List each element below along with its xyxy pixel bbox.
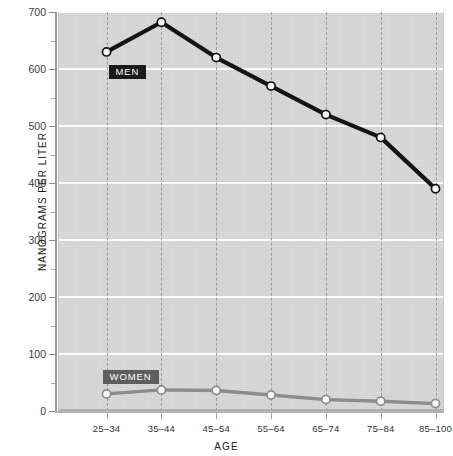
- x-tick-mark: [326, 413, 327, 419]
- data-point-marker: [212, 386, 220, 394]
- data-point-marker: [431, 399, 439, 407]
- x-tick-label: 25–34: [93, 423, 120, 434]
- x-tick-label: 55–64: [257, 423, 284, 434]
- x-tick-mark: [381, 413, 382, 419]
- x-tick-label: 45–54: [202, 423, 229, 434]
- y-tick-minor: [51, 41, 55, 42]
- data-point-marker: [102, 48, 110, 56]
- data-point-marker: [267, 391, 275, 399]
- data-point-marker: [157, 386, 165, 394]
- data-point-marker: [431, 185, 439, 193]
- y-tick-major: [49, 12, 55, 13]
- y-tick-major: [49, 126, 55, 127]
- x-tick-label: 75–84: [367, 423, 394, 434]
- y-tick-major: [49, 354, 55, 355]
- y-tick-label: 600: [28, 63, 46, 75]
- y-tick-label: 0: [40, 405, 46, 417]
- y-tick-label: 400: [28, 177, 46, 189]
- series-line-men: [107, 22, 436, 188]
- data-point-marker: [102, 390, 110, 398]
- y-tick-minor: [51, 383, 55, 384]
- x-tick-mark: [216, 413, 217, 419]
- x-tick-label: 35–44: [148, 423, 175, 434]
- y-axis-spine: [55, 12, 57, 412]
- y-axis-tick-labels: 0100200300400500600700: [0, 0, 52, 456]
- y-tick-major: [49, 183, 55, 184]
- y-tick-major: [49, 240, 55, 241]
- x-axis-line: [55, 411, 444, 413]
- x-tick-label: 85–100: [419, 423, 452, 434]
- y-tick-label: 300: [28, 234, 46, 246]
- y-tick-major: [49, 69, 55, 70]
- x-tick-mark: [107, 413, 108, 419]
- y-tick-label: 500: [28, 120, 46, 132]
- y-tick-minor: [51, 269, 55, 270]
- y-tick-label: 100: [28, 348, 46, 360]
- data-point-marker: [377, 397, 385, 405]
- x-tick-label: 65–74: [312, 423, 339, 434]
- x-tick-mark: [436, 413, 437, 419]
- y-tick-minor: [51, 155, 55, 156]
- y-tick-minor: [51, 326, 55, 327]
- x-tick-mark: [161, 413, 162, 419]
- x-axis-title: AGE: [0, 441, 453, 452]
- y-tick-major: [49, 297, 55, 298]
- data-point-marker: [267, 82, 275, 90]
- data-point-marker: [322, 396, 330, 404]
- y-tick-label: 200: [28, 291, 46, 303]
- data-point-marker: [157, 18, 165, 26]
- data-point-marker: [212, 54, 220, 62]
- y-tick-minor: [51, 212, 55, 213]
- chart-figure: NANOGRAMS PER LITER 01002003004005006007…: [0, 0, 453, 456]
- series-label-women: WOMEN: [103, 370, 159, 385]
- y-tick-minor: [51, 98, 55, 99]
- plot-area: MEN WOMEN: [59, 12, 444, 411]
- data-point-marker: [377, 133, 385, 141]
- x-tick-mark: [271, 413, 272, 419]
- data-point-marker: [322, 111, 330, 119]
- series-label-men: MEN: [109, 65, 147, 80]
- y-tick-major: [49, 411, 55, 412]
- y-tick-label: 700: [28, 6, 46, 18]
